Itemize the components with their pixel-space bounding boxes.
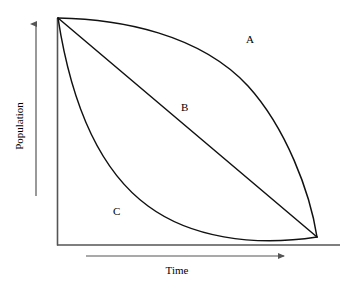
y-axis-label: Population (13, 88, 25, 164)
x-axis-label: Time (0, 264, 354, 276)
chart-plot-area (0, 0, 354, 293)
population-decline-chart: A B C Time Population (0, 0, 354, 293)
curve-label-a: A (246, 34, 254, 45)
curve-label-b: B (181, 102, 188, 113)
curve-label-c: C (113, 206, 120, 217)
